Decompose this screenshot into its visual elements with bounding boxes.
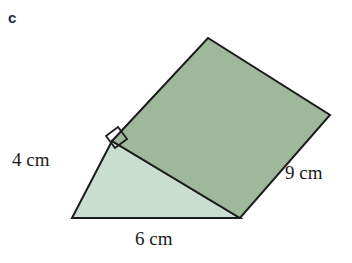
dimension-label-left-edge: 4 cm <box>12 150 49 169</box>
dimension-label-right-edge: 9 cm <box>285 163 322 182</box>
prism-diagram <box>0 0 352 263</box>
dimension-label-base-edge: 6 cm <box>135 229 172 248</box>
figure-canvas: c 4 cm 9 cm 6 cm <box>0 0 352 263</box>
